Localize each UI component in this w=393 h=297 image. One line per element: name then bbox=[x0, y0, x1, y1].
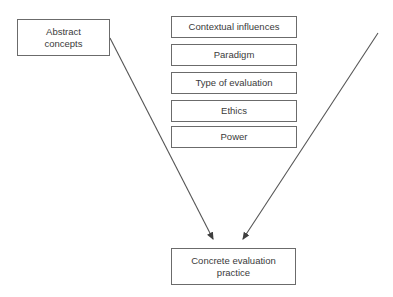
diagram-canvas: Abstract concepts Contextual influences … bbox=[0, 0, 393, 297]
node-ethics-label: Ethics bbox=[221, 105, 247, 117]
node-contextual-influences: Contextual influences bbox=[171, 16, 297, 38]
node-ethics: Ethics bbox=[171, 100, 297, 122]
node-type-of-evaluation: Type of evaluation bbox=[171, 72, 297, 94]
node-concrete-evaluation-practice-label: Concrete evaluation practice bbox=[191, 255, 276, 279]
node-abstract-concepts-label: Abstract concepts bbox=[44, 26, 82, 50]
node-abstract-concepts: Abstract concepts bbox=[17, 19, 110, 56]
node-power: Power bbox=[171, 126, 297, 148]
node-type-of-evaluation-label: Type of evaluation bbox=[195, 77, 272, 89]
node-concrete-evaluation-practice: Concrete evaluation practice bbox=[171, 248, 296, 285]
node-paradigm-label: Paradigm bbox=[214, 49, 255, 61]
node-contextual-influences-label: Contextual influences bbox=[189, 21, 280, 33]
node-paradigm: Paradigm bbox=[171, 44, 297, 66]
node-power-label: Power bbox=[221, 131, 248, 143]
